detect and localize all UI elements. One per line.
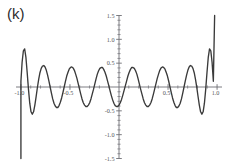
y-tick-label: 1.0 <box>107 36 115 43</box>
y-tick-label: -1.0 <box>105 131 115 138</box>
x-tick-label: 1.0 <box>212 89 220 96</box>
figure-panel: (k) 1.51.00.5-0.5-1.0-1.5 -1.0-0.50.51.0 <box>0 0 243 167</box>
y-tick-label: 1.5 <box>107 12 115 19</box>
y-tick-label: -0.5 <box>105 107 115 114</box>
x-axis-tick-labels: -1.0-0.50.51.0 <box>15 89 220 96</box>
y-tick-label: 0.5 <box>107 59 115 66</box>
plot-area: 1.51.00.5-0.5-1.0-1.5 -1.0-0.50.51.0 <box>0 0 243 167</box>
x-tick-label: -1.0 <box>15 89 25 96</box>
y-tick-label: -1.5 <box>105 155 115 162</box>
x-tick-label: -0.5 <box>64 89 74 96</box>
x-tick-label: 0.5 <box>163 89 171 96</box>
